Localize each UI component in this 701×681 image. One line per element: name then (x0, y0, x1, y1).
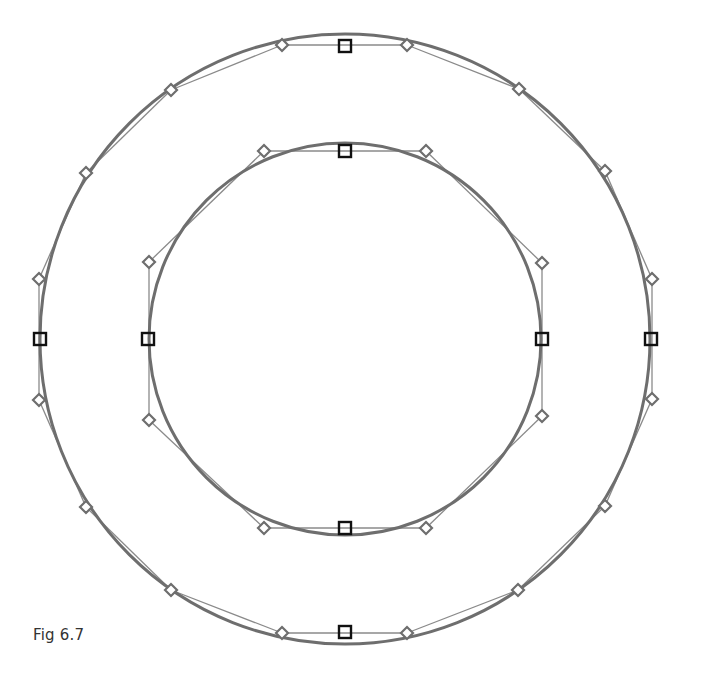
outer-anchor-square-icon (339, 40, 351, 52)
outer-handle-diamond-icon (33, 394, 45, 406)
outer-handle-diamond-icon (33, 273, 45, 285)
outer-handle-line (407, 45, 519, 89)
inner-curve (149, 143, 541, 535)
outer-circle-group (33, 34, 658, 644)
outer-handle-diamond-icon (646, 393, 658, 405)
bezier-circles-diagram (0, 0, 701, 681)
outer-curve (40, 34, 650, 644)
outer-handle-diamond-icon (646, 273, 658, 285)
inner-handle-line (426, 416, 542, 528)
outer-handle-line (171, 45, 282, 90)
inner-handle-line (149, 151, 264, 262)
figure-caption: Fig 6.7 (33, 626, 84, 644)
outer-handle-line (407, 590, 518, 633)
inner-handle-line (149, 420, 264, 528)
outer-handle-line (171, 590, 282, 633)
outer-anchor-square-icon (339, 626, 351, 638)
inner-circle-group (142, 143, 548, 535)
